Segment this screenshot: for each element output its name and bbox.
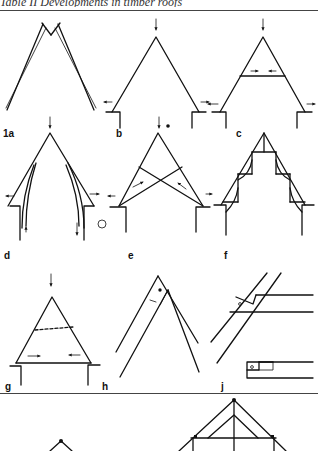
figure-g	[10, 274, 100, 385]
figure-1a	[6, 23, 96, 110]
figure-e	[108, 117, 212, 232]
figure-b	[104, 19, 209, 128]
roof-diagrams	[0, 0, 318, 451]
figure-c	[208, 19, 315, 128]
figure-f	[214, 133, 314, 235]
figure-h	[116, 276, 199, 377]
figure-j	[211, 273, 313, 378]
figure-d	[6, 117, 106, 240]
bottom-trusses	[50, 398, 286, 451]
